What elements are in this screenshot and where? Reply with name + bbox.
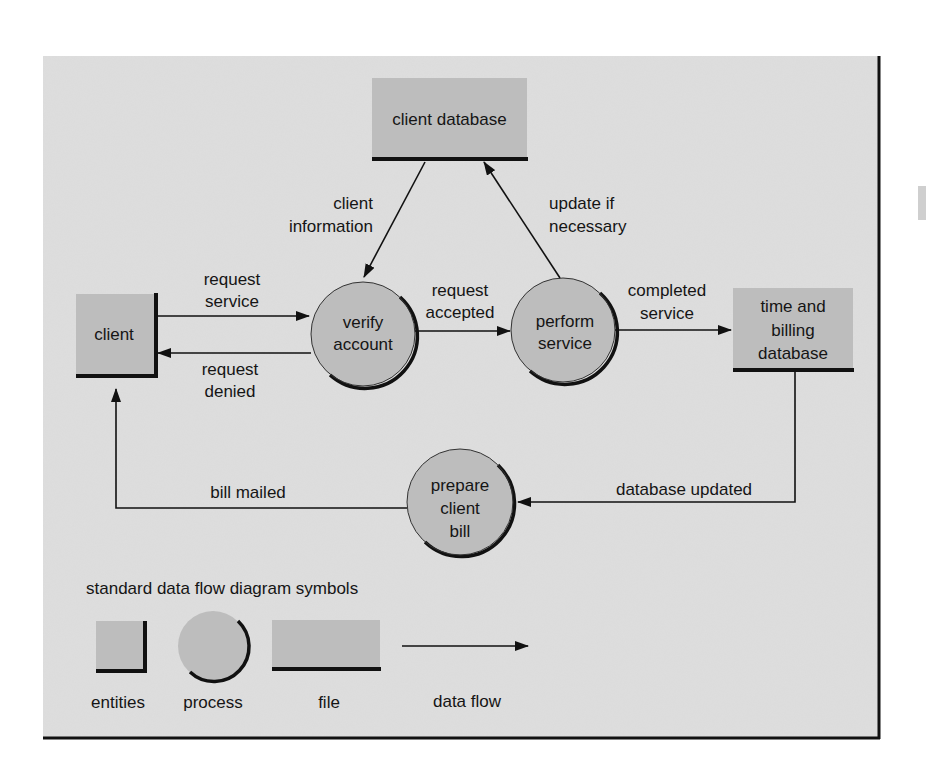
client-information-line-1: client xyxy=(333,194,373,213)
client-database-label: client database xyxy=(392,110,506,129)
completed-service-line-2: service xyxy=(640,304,694,323)
request-denied-line-1: request xyxy=(202,360,259,379)
update-if-necessary-line-1: update if xyxy=(549,194,614,213)
perform-service-line-1: perform xyxy=(536,312,595,331)
legend-entities-label: entities xyxy=(91,693,145,712)
legend-process-label: process xyxy=(183,693,243,712)
update-if-necessary-line-2: necessary xyxy=(549,217,627,236)
page-edge-tab xyxy=(918,186,926,220)
legend-process-symbol xyxy=(178,611,249,682)
client-entity: client xyxy=(76,293,158,378)
time-billing-line-2: billing xyxy=(771,321,814,340)
database-updated-label: database updated xyxy=(616,480,752,499)
legend-title: standard data flow diagram symbols xyxy=(86,579,358,598)
diagram-stage: client database client verify account pe… xyxy=(0,0,926,763)
time-billing-line-1: time and xyxy=(760,297,825,316)
legend-data-flow-label: data flow xyxy=(433,692,502,711)
time-billing-database-file: time and billing database xyxy=(733,288,854,370)
prepare-bill-line-3: bill xyxy=(450,522,471,541)
dfd-canvas: client database client verify account pe… xyxy=(0,0,926,763)
client-label: client xyxy=(94,325,134,344)
time-billing-line-3: database xyxy=(758,344,828,363)
request-service-line-1: request xyxy=(204,270,261,289)
legend-entity-symbol xyxy=(96,621,147,673)
client-database-file: client database xyxy=(372,78,528,159)
completed-service-line-1: completed xyxy=(628,281,706,300)
verify-account-line-1: verify xyxy=(343,313,384,332)
request-accepted-line-1: request xyxy=(432,281,489,300)
prepare-client-bill-process: prepare client bill xyxy=(407,449,515,557)
prepare-bill-line-1: prepare xyxy=(431,476,490,495)
verify-account-line-2: account xyxy=(333,335,393,354)
legend-file-symbol xyxy=(272,620,381,669)
legend-file-label: file xyxy=(318,693,340,712)
bill-mailed-label: bill mailed xyxy=(210,483,286,502)
prepare-bill-line-2: client xyxy=(440,499,480,518)
request-accepted-line-2: accepted xyxy=(426,303,495,322)
request-denied-line-2: denied xyxy=(204,382,255,401)
perform-service-line-2: service xyxy=(538,334,592,353)
client-information-line-2: information xyxy=(289,217,373,236)
request-service-line-2: service xyxy=(205,292,259,311)
